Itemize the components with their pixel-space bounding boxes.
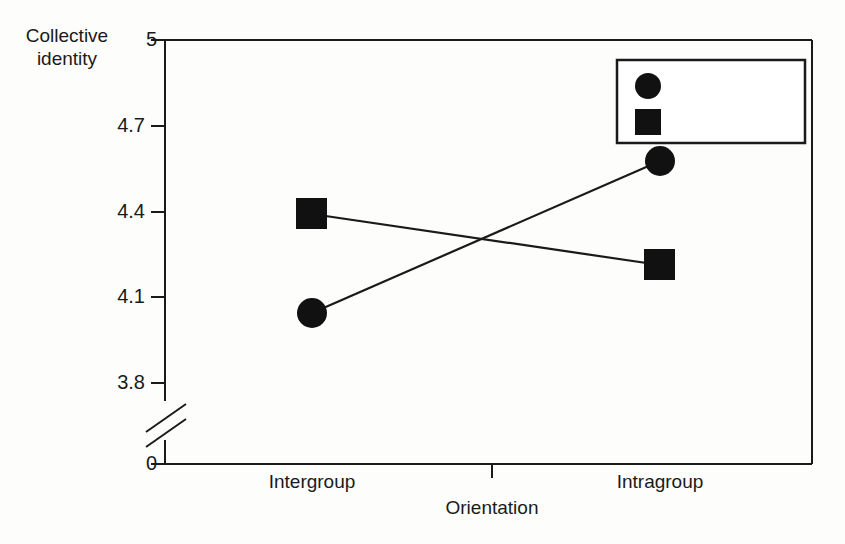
data-point-differentiation-intergroup	[296, 198, 327, 229]
data-point-independence-intergroup	[297, 298, 327, 328]
legend-box	[617, 60, 805, 143]
chart-figure: Collective identity 5 4.7 4.4 4.1 3.8 0 …	[0, 0, 845, 544]
data-point-differentiation-intragroup	[644, 249, 675, 280]
legend-marker-square-icon	[635, 109, 661, 135]
legend-marker-circle-icon	[635, 73, 661, 99]
series-line-independence	[312, 161, 660, 313]
data-point-independence-intragroup	[645, 146, 675, 176]
y-axis-ticks	[151, 40, 165, 464]
series-line-differentiation	[312, 214, 660, 265]
chart-canvas	[0, 0, 845, 544]
